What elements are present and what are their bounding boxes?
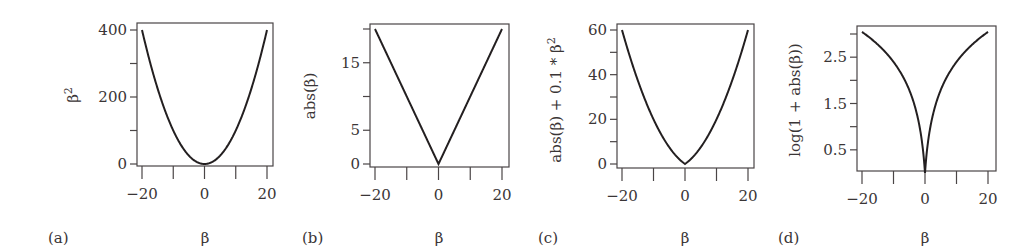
x-tick-label: 0	[920, 190, 930, 208]
x-tick-label: 20	[738, 187, 757, 205]
y-axis: 0.51.52.5	[823, 34, 857, 159]
plot-frame	[370, 24, 509, 167]
x-axis-label: β	[921, 229, 930, 247]
panel-label: (b)	[302, 229, 323, 247]
data-line	[142, 30, 267, 164]
x-tick-label: −20	[359, 186, 391, 204]
y-tick-label: 0	[597, 155, 607, 173]
y-tick-label: 1.5	[823, 95, 847, 113]
panel-c: 0204060 −20020 abs(β) + 0.1 * β2 β (c)	[538, 21, 758, 247]
panel-label: (d)	[778, 229, 799, 247]
y-tick-label: 0	[350, 155, 360, 173]
y-tick-label: 60	[588, 21, 607, 39]
y-tick-label: 200	[98, 88, 127, 106]
y-axis: 0515	[341, 29, 370, 173]
panel-label: (c)	[538, 229, 558, 247]
figure-canvas: 0200400 −20020 β2 β (a) 0515 −20020 abs(…	[0, 0, 1036, 251]
x-tick-label: 20	[978, 190, 997, 208]
x-tick-label: 20	[492, 186, 511, 204]
plot-frame	[617, 24, 754, 168]
x-axis-label: β	[681, 229, 690, 247]
y-axis-label: abs(β)	[301, 73, 319, 120]
x-tick-label: −20	[126, 185, 158, 203]
y-axis-label: β2	[62, 87, 82, 103]
plot-frame	[137, 23, 273, 166]
panel-b: 0515 −20020 abs(β) β (b)	[301, 24, 512, 247]
data-line	[375, 29, 502, 164]
y-tick-label: 0.5	[823, 141, 847, 159]
data-line	[862, 32, 988, 173]
y-axis: 0204060	[588, 21, 617, 173]
y-tick-label: 20	[588, 110, 607, 128]
x-axis: −20020	[846, 171, 997, 208]
y-tick-label: 40	[588, 66, 607, 84]
x-tick-label: 0	[680, 187, 690, 205]
y-axis-label: log(1 + abs(β))	[786, 43, 804, 156]
x-axis-label: β	[435, 229, 444, 247]
panel-d: 0.51.52.5 −20020 log(1 + abs(β)) β (d)	[778, 26, 998, 247]
y-tick-label: 400	[98, 21, 127, 39]
x-axis-label: β	[201, 229, 210, 247]
panel-a: 0200400 −20020 β2 β (a)	[48, 21, 277, 247]
x-tick-label: −20	[846, 190, 878, 208]
x-axis: −20020	[359, 167, 511, 204]
x-axis: −20020	[126, 166, 276, 203]
x-tick-label: 0	[434, 186, 444, 204]
x-tick-label: 0	[200, 185, 210, 203]
x-tick-label: 20	[257, 185, 276, 203]
data-line	[622, 30, 748, 164]
y-axis-label: abs(β) + 0.1 * β2	[545, 37, 565, 162]
x-tick-label: −20	[606, 187, 638, 205]
x-axis: −20020	[606, 168, 757, 205]
y-tick-label: 0	[117, 155, 127, 173]
y-tick-label: 15	[341, 54, 360, 72]
panel-label: (a)	[48, 229, 69, 247]
y-tick-label: 5	[350, 121, 360, 139]
y-tick-label: 2.5	[823, 48, 847, 66]
y-axis: 0200400	[98, 21, 137, 173]
